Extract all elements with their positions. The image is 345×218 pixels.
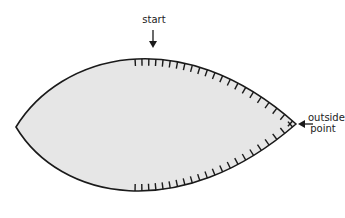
outside-point-label-line1: outside bbox=[308, 112, 338, 123]
outside-point-label: outside point bbox=[308, 112, 338, 134]
leaf-shape bbox=[16, 59, 296, 191]
outside-point-label-line2: point bbox=[308, 123, 338, 134]
start-label: start bbox=[138, 14, 170, 25]
start-arrow bbox=[149, 30, 157, 48]
